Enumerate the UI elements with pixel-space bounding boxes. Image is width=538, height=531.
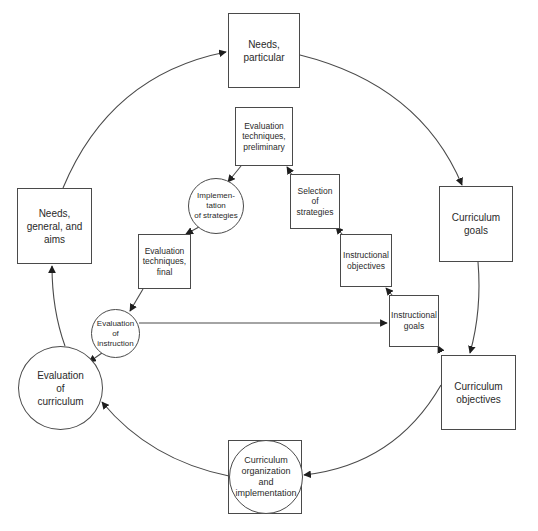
arrow-curriculum-objectives-to-organization [304,385,441,475]
node-curriculum-objectives: Curriculum objectives [441,355,516,430]
node-evaluation-of-instruction: Evaluation of instruction [91,309,140,358]
node-instructional-goals: Instructional goals [389,295,439,347]
node-needs-general-and-aims: Needs, general, and aims [17,188,92,264]
node-label: Evaluation techniques, preliminary [242,121,285,153]
arrow-eval-preliminary-to-implementation [228,166,241,182]
node-label: Instructional objectives [343,250,389,271]
node-evaluation-techniques-final: Evaluation techniques, final [138,234,191,289]
node-selection-of-strategies: Selection of strategies [290,174,340,229]
node-needs-particular: Needs, particular [228,13,300,88]
arrow-eval-final-to-evaluation-instruction [130,289,143,311]
node-label: Implemen- tation of strategies [194,191,238,221]
node-evaluation-techniques-preliminary: Evaluation techniques, preliminary [235,107,293,166]
node-label: Curriculum goals [452,211,500,237]
arrow-implementation-to-eval-final [186,227,199,234]
node-label: Needs, particular [243,38,284,64]
node-label: Evaluation of instruction [97,319,134,349]
node-label: Evaluation techniques, final [143,246,186,278]
arrow-evaluation-curriculum-to-needs-general [52,266,65,346]
arrow-organization-to-evaluation-curriculum [102,402,229,476]
node-label: Selection of strategies [297,186,334,218]
node-curriculum-goals: Curriculum goals [439,186,513,262]
node-instructional-objectives: Instructional objectives [340,234,392,287]
node-curriculum-organization: Curriculum organization and implementati… [229,440,303,514]
arrow-needs-particular-to-curriculum-goals [300,55,462,185]
node-label: Evaluation of curriculum [37,369,84,408]
arrow-needs-general-to-needs-particular [63,52,226,188]
arrow-curriculum-goals-to-objectives [470,262,479,353]
node-label: Needs, general, and aims [27,207,83,246]
arrow-instructional-goals-to-objectives [386,288,392,295]
node-evaluation-of-curriculum: Evaluation of curriculum [18,346,103,430]
node-label: Curriculum organization and implementati… [235,455,296,500]
node-label: Curriculum objectives [454,380,502,406]
node-implementation-of-strategies: Implemen- tation of strategies [188,178,244,234]
node-label: Instructional goals [391,310,437,331]
